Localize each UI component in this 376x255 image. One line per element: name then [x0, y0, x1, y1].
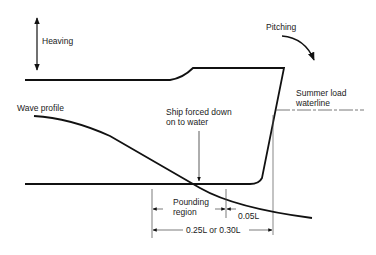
summer-load-label-1: Summer load	[296, 88, 347, 98]
ship-forced-label-2: on to water	[166, 117, 208, 127]
ship-forced-label-1: Ship forced down	[166, 107, 232, 117]
dimension-005L-label: 0.05L	[238, 211, 259, 221]
pitching-arrow-icon	[282, 36, 314, 60]
wave-profile-label: Wave profile	[17, 103, 64, 113]
heaving-label: Heaving	[42, 36, 73, 46]
pitching-label: Pitching	[266, 22, 296, 32]
ship-hull	[25, 68, 284, 184]
pounding-label-1: Pounding	[173, 197, 209, 207]
summer-load-waterline	[273, 110, 364, 235]
pounding-label-2: region	[173, 207, 197, 217]
dimension-025L-label: 0.25L or 0.30L	[186, 225, 241, 235]
summer-load-label-2: waterline	[296, 98, 330, 108]
